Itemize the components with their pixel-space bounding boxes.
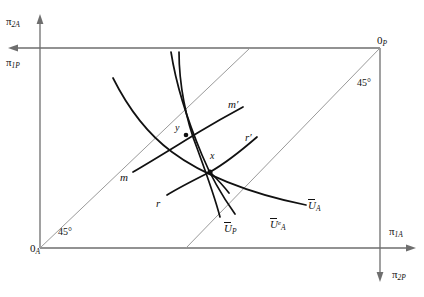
curve-label-u-a-text: U	[308, 200, 316, 211]
curve-label-u-p: UP	[224, 223, 237, 235]
diagonal-upper-right	[186, 48, 380, 248]
point-marker-x	[207, 169, 212, 174]
origin-agent-label: 0A	[30, 243, 40, 255]
curve-label-u-a-sub: A	[316, 204, 321, 213]
curve-label-m-prime-text: m	[228, 98, 236, 110]
curve-label-u-p-sub: P	[232, 227, 237, 236]
curve-u-a	[113, 78, 306, 205]
angle-label-lower-left: 45°	[58, 227, 72, 237]
origin-principal-sub: P	[383, 39, 388, 48]
origin-agent-sub: A	[36, 247, 41, 256]
curve-label-u-p-text: U	[224, 223, 232, 234]
diagram-canvas	[0, 0, 424, 297]
axis-pi2p-arrow	[377, 272, 384, 282]
axis-pi1a-arrow	[406, 245, 416, 252]
diagonal-group	[40, 48, 380, 248]
curve-r	[167, 137, 257, 195]
origin-principal-label: 0P	[377, 35, 387, 47]
curve-label-m-text: m	[120, 171, 128, 183]
curve-group	[113, 52, 306, 217]
curve-label-u-a-e-sub: A	[281, 223, 286, 232]
curve-label-u-a-e: UeA	[270, 219, 286, 231]
axis-group	[8, 14, 416, 282]
point-label-y: y	[175, 123, 179, 133]
axis-label-pi-1a-sub: 1A	[395, 230, 403, 239]
axis-label-pi-1a: π1A	[389, 226, 403, 238]
axis-label-pi-2p: π2P	[392, 269, 406, 281]
point-marker-y	[184, 133, 189, 138]
axis-label-pi-2a-sub: 2A	[12, 20, 20, 29]
angle-label-upper-right: 45°	[357, 78, 371, 88]
axis-pi2a-arrow	[37, 14, 44, 24]
point-label-x: x	[210, 151, 214, 161]
axis-label-pi-2a: π2A	[6, 16, 20, 28]
curve-label-m-prime: m′	[228, 99, 238, 110]
edgeworth-box-figure: 0A 0P π2A π1P π1A π2P 45° 45° x y m m′ r…	[0, 0, 424, 297]
curve-label-u-a: UA	[308, 200, 321, 212]
curve-label-r-prime-mark2: ′	[249, 131, 251, 143]
curve-label-m: m	[120, 172, 128, 183]
curve-label-r-prime: r′	[245, 132, 252, 143]
curve-label-u-a-e-text: U	[270, 219, 278, 230]
curve-label-r: r	[156, 198, 160, 209]
axis-label-pi-2p-sub: 2P	[398, 273, 406, 282]
diagonal-lower-left	[40, 48, 250, 248]
axis-pi1p-arrow	[8, 45, 18, 52]
axis-label-pi-1p-sub: 1P	[12, 61, 20, 70]
curve-label-r-text: r	[156, 197, 160, 209]
curve-label-m-prime-mark2: ′	[236, 98, 238, 110]
axis-label-pi-1p: π1P	[6, 57, 20, 69]
